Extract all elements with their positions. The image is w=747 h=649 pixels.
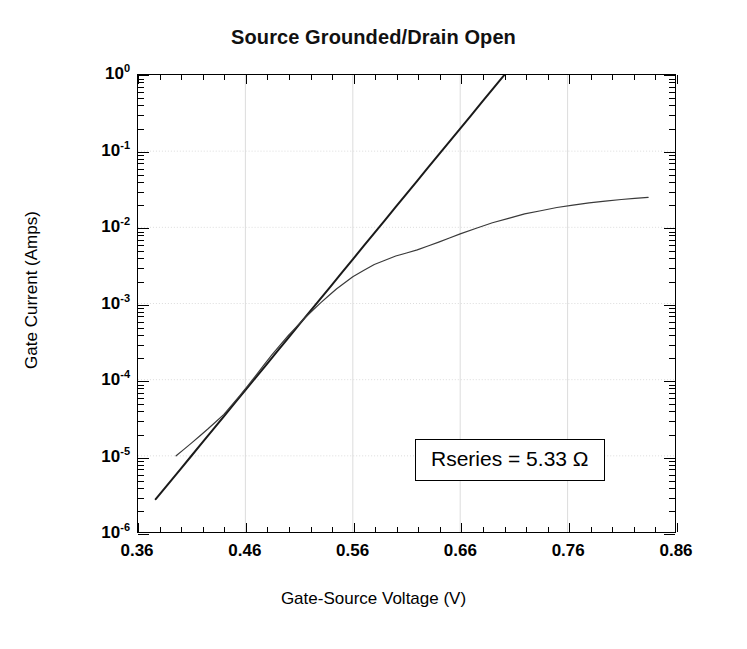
y-tick-minor <box>138 175 144 176</box>
x-tick-major <box>677 523 678 532</box>
x-tick-label: 0.66 <box>425 541 495 561</box>
x-tick-major <box>354 523 355 532</box>
y-tick-major <box>138 381 149 382</box>
y-tick-minor <box>138 155 144 156</box>
y-tick-minor-right <box>669 175 675 176</box>
x-tick-minor <box>440 527 441 532</box>
y-tick-minor-right <box>669 465 675 466</box>
x-tick-minor-top <box>505 75 506 80</box>
y-tick-minor-right <box>669 82 675 83</box>
x-tick-minor-top <box>224 75 225 80</box>
y-tick-minor-right <box>669 163 675 164</box>
y-tick-minor <box>138 129 144 130</box>
y-tick-minor <box>138 105 144 106</box>
y-tick-minor <box>138 245 144 246</box>
y-tick-minor <box>138 115 144 116</box>
y-tick-minor-right <box>669 435 675 436</box>
x-tick-minor <box>332 527 333 532</box>
y-tick-minor <box>138 404 144 405</box>
y-tick-minor-right <box>669 79 675 80</box>
x-tick-major <box>138 523 139 532</box>
x-tick-major-top <box>569 75 570 84</box>
y-tick-minor-right <box>669 316 675 317</box>
y-tick-minor-right <box>669 388 675 389</box>
y-tick-minor <box>138 345 144 346</box>
y-tick-minor <box>138 232 144 233</box>
x-tick-major-top <box>138 75 139 84</box>
y-tick-minor <box>138 308 144 309</box>
y-tick-minor-right <box>669 328 675 329</box>
y-tick-minor <box>138 268 144 269</box>
y-tick-minor-right <box>669 335 675 336</box>
y-tick-minor <box>138 92 144 93</box>
x-tick-minor-top <box>311 75 312 80</box>
y-tick-minor <box>138 385 144 386</box>
y-tick-minor-right <box>669 115 675 116</box>
x-tick-major <box>461 523 462 532</box>
x-tick-minor-top <box>332 75 333 80</box>
x-tick-minor-top <box>548 75 549 80</box>
y-tick-minor-right <box>669 129 675 130</box>
x-tick-minor <box>548 527 549 532</box>
y-tick-major-right <box>664 228 675 229</box>
x-tick-label: 0.56 <box>318 541 388 561</box>
y-tick-minor <box>138 240 144 241</box>
x-tick-minor-top <box>181 75 182 80</box>
y-tick-minor <box>138 388 144 389</box>
x-tick-major-top <box>461 75 462 84</box>
y-tick-minor-right <box>669 488 675 489</box>
y-tick-minor <box>138 481 144 482</box>
y-tick-minor-right <box>669 411 675 412</box>
y-tick-minor <box>138 235 144 236</box>
x-tick-minor-top <box>634 75 635 80</box>
x-tick-minor <box>203 527 204 532</box>
x-tick-label: 0.36 <box>102 541 172 561</box>
x-tick-minor-top <box>203 75 204 80</box>
x-tick-minor-top <box>397 75 398 80</box>
y-tick-minor <box>138 358 144 359</box>
y-tick-minor <box>138 335 144 336</box>
y-tick-minor-right <box>669 92 675 93</box>
x-tick-major-top <box>246 75 247 84</box>
y-tick-minor-right <box>669 398 675 399</box>
x-tick-major <box>246 523 247 532</box>
x-tick-minor <box>591 527 592 532</box>
y-tick-minor-right <box>669 461 675 462</box>
y-tick-minor <box>138 282 144 283</box>
x-tick-minor <box>526 527 527 532</box>
y-tick-major-right <box>664 152 675 153</box>
y-tick-minor-right <box>669 87 675 88</box>
rseries-annotation: Rseries = 5.33 Ω <box>415 439 605 481</box>
y-tick-minor-right <box>669 345 675 346</box>
y-tick-minor-right <box>669 358 675 359</box>
x-tick-minor-top <box>418 75 419 80</box>
y-tick-minor-right <box>669 308 675 309</box>
y-tick-minor-right <box>669 245 675 246</box>
y-tick-major-right <box>664 458 675 459</box>
x-tick-minor-top <box>526 75 527 80</box>
y-tick-major-right <box>664 534 675 535</box>
y-tick-minor-right <box>669 251 675 252</box>
x-tick-minor <box>224 527 225 532</box>
y-tick-minor <box>138 192 144 193</box>
y-tick-minor <box>138 461 144 462</box>
y-tick-minor <box>138 465 144 466</box>
y-tick-minor <box>138 328 144 329</box>
y-tick-minor <box>138 87 144 88</box>
y-tick-minor-right <box>669 385 675 386</box>
x-tick-minor-top <box>289 75 290 80</box>
y-tick-major <box>138 534 149 535</box>
y-tick-minor <box>138 163 144 164</box>
x-tick-minor <box>289 527 290 532</box>
y-tick-minor <box>138 322 144 323</box>
y-tick-major <box>138 458 149 459</box>
y-tick-minor-right <box>669 404 675 405</box>
y-tick-minor <box>138 98 144 99</box>
y-tick-major-right <box>664 381 675 382</box>
y-tick-minor-right <box>669 498 675 499</box>
y-tick-minor <box>138 498 144 499</box>
y-tick-label: 10-3 <box>70 292 130 314</box>
y-tick-minor-right <box>669 205 675 206</box>
x-tick-minor <box>267 527 268 532</box>
y-tick-minor-right <box>669 105 675 106</box>
